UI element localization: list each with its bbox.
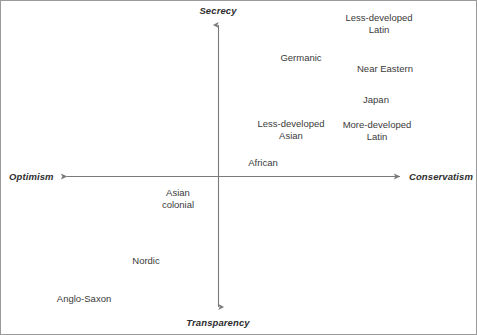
data-label-nordic: Nordic xyxy=(132,255,159,267)
data-label-near-eastern: Near Eastern xyxy=(357,63,413,75)
data-label-anglo-saxon: Anglo-Saxon xyxy=(57,293,111,305)
axis-label-secrecy: Secrecy xyxy=(199,5,236,16)
data-label-african: African xyxy=(248,157,278,169)
axes-group xyxy=(1,1,477,335)
axis-label-optimism: Optimism xyxy=(9,171,54,182)
axis-label-conservatism: Conservatism xyxy=(409,171,473,182)
data-label-asian-colonial: Asian colonial xyxy=(162,187,194,210)
data-label-germanic: Germanic xyxy=(280,52,321,64)
quadrant-chart: Secrecy Transparency Optimism Conservati… xyxy=(0,0,477,335)
axis-label-transparency: Transparency xyxy=(186,317,249,328)
data-label-more-developed-latin: More-developed Latin xyxy=(343,119,412,142)
data-label-japan: Japan xyxy=(363,94,389,106)
data-label-less-developed-latin: Less-developed Latin xyxy=(345,12,412,35)
data-label-less-developed-asian: Less-developed Asian xyxy=(257,118,324,141)
